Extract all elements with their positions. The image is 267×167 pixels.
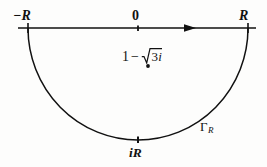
pole-dot — [146, 64, 150, 68]
label-origin: 0 — [132, 9, 139, 23]
contour-diagram: −R 0 R iR 1−3i ΓR — [0, 0, 267, 167]
label-contour-gamma: ΓR — [200, 120, 214, 135]
pole-real-part: 1 — [122, 49, 129, 64]
label-arc-bottom: iR — [129, 146, 142, 160]
sqrt-icon: 3i — [141, 47, 163, 64]
label-right-endpoint: R — [239, 9, 248, 23]
pole-radical-group: 3i — [141, 47, 163, 64]
gamma-symbol: Γ — [200, 119, 208, 134]
pole-minus-sign: − — [131, 49, 139, 64]
direction-arrow-icon — [184, 24, 196, 32]
contour-graphic — [0, 0, 267, 167]
label-left-endpoint: −R — [13, 9, 31, 23]
semicircular-arc — [28, 28, 248, 140]
svg-text:3: 3 — [151, 49, 158, 64]
label-pole: 1−3i — [122, 47, 163, 64]
gamma-subscript: R — [208, 125, 214, 135]
svg-text:i: i — [158, 49, 162, 64]
